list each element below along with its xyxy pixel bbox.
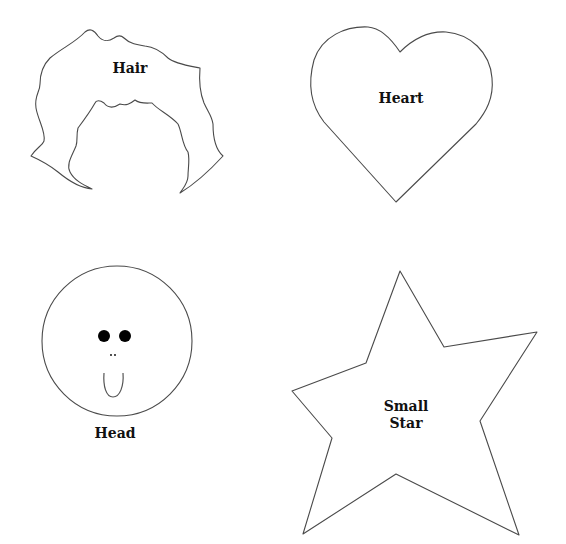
left-eye-icon xyxy=(98,330,110,342)
heart-label: Heart xyxy=(378,90,424,106)
hair-shape: Hair xyxy=(31,30,223,193)
nose-dot-right xyxy=(114,354,116,356)
star-shape: Small Star xyxy=(292,271,537,535)
nose-dot-left xyxy=(110,354,112,356)
hair-outline xyxy=(31,30,223,193)
head-label: Head xyxy=(95,425,136,441)
star-label-line2: Star xyxy=(389,415,423,431)
heart-outline xyxy=(311,27,492,202)
hair-label: Hair xyxy=(113,60,149,76)
head-outline xyxy=(42,266,192,416)
right-eye-icon xyxy=(119,330,131,342)
head-shape: Head xyxy=(42,266,192,441)
star-label-line1: Small xyxy=(384,398,429,414)
template-canvas: Hair Heart Head Small Star xyxy=(0,0,566,544)
heart-shape: Heart xyxy=(311,27,492,202)
